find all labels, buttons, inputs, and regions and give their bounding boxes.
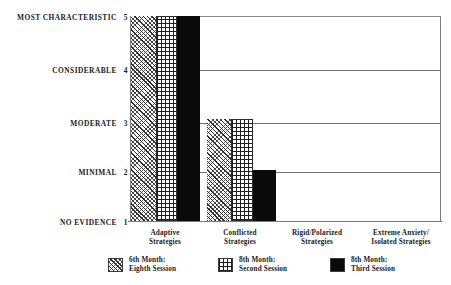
category-label-line2: Strategies bbox=[272, 238, 362, 247]
legend-swatch-crosshatch-grid-icon bbox=[218, 258, 233, 272]
y-tick-text-4: CONSIDERABLE bbox=[52, 66, 117, 75]
y-tick-number-3: 3 bbox=[124, 119, 128, 128]
legend-label-line2: Third Session bbox=[351, 265, 395, 274]
category-label-line1: Conflicted bbox=[196, 229, 284, 238]
bar-conflicted-8th-month-second-session bbox=[231, 119, 253, 221]
figure-root: MOST CHARACTERISTIC5 CONSIDERABLE4 MODER… bbox=[0, 0, 451, 285]
y-tick-label-1: NO EVIDENCE1 bbox=[60, 218, 128, 227]
y-tick-number-4: 4 bbox=[124, 66, 128, 75]
legend-label-6th-month-eighth-session: 6th Month: Eighth Session bbox=[129, 256, 176, 274]
bar-adaptive-6th-month-eighth-session bbox=[131, 16, 156, 221]
legend-item-8th-month-third-session: 8th Month: Third Session bbox=[330, 256, 395, 274]
legend-label-8th-month-second-session: 8th Month: Second Session bbox=[239, 256, 287, 274]
legend-item-6th-month-eighth-session: 6th Month: Eighth Session bbox=[108, 256, 176, 274]
plot-area bbox=[130, 16, 441, 222]
y-tick-number-1: 1 bbox=[124, 218, 128, 227]
legend-label-line2: Eighth Session bbox=[129, 265, 176, 274]
y-tick-number-2: 2 bbox=[124, 168, 128, 177]
y-tick-label-3: MODERATE3 bbox=[70, 119, 128, 128]
category-label-line2: Strategies bbox=[196, 238, 284, 247]
bar-adaptive-8th-month-third-session bbox=[177, 16, 200, 221]
y-tick-text-5: MOST CHARACTERISTIC bbox=[17, 13, 117, 22]
y-tick-label-4: CONSIDERABLE4 bbox=[52, 66, 128, 75]
legend-label-line2: Second Session bbox=[239, 265, 287, 274]
y-tick-label-5: MOST CHARACTERISTIC5 bbox=[17, 13, 128, 22]
category-label-extreme-anxiety-isolated-strategies: Extreme Anxiety/ Isolated Strategies bbox=[352, 229, 450, 248]
legend-item-8th-month-second-session: 8th Month: Second Session bbox=[218, 256, 287, 274]
bar-adaptive-8th-month-second-session bbox=[156, 16, 177, 221]
x-axis-baseline bbox=[128, 221, 442, 222]
legend-label-line1: 8th Month: bbox=[351, 256, 395, 265]
bar-conflicted-6th-month-eighth-session bbox=[207, 119, 231, 221]
bar-conflicted-8th-month-third-session bbox=[253, 170, 276, 221]
legend-swatch-solid-black-icon bbox=[330, 258, 345, 272]
category-label-conflicted-strategies: Conflicted Strategies bbox=[196, 229, 284, 248]
category-label-line1: Rigid/Polarized bbox=[272, 229, 362, 238]
category-label-rigid-polarized-strategies: Rigid/Polarized Strategies bbox=[272, 229, 362, 248]
legend-label-line1: 6th Month: bbox=[129, 256, 176, 265]
y-tick-text-1: NO EVIDENCE bbox=[60, 218, 117, 227]
category-label-line1: Extreme Anxiety/ bbox=[352, 229, 450, 238]
legend-label-line1: 8th Month: bbox=[239, 256, 287, 265]
legend-swatch-diagonal-hatch-icon bbox=[108, 258, 123, 272]
y-tick-number-5: 5 bbox=[124, 13, 128, 22]
y-tick-text-3: MODERATE bbox=[70, 119, 117, 128]
legend-label-8th-month-third-session: 8th Month: Third Session bbox=[351, 256, 395, 274]
category-label-line2: Isolated Strategies bbox=[352, 238, 450, 247]
y-tick-text-2: MINIMAL bbox=[78, 168, 116, 177]
y-tick-label-2: MINIMAL2 bbox=[78, 168, 128, 177]
